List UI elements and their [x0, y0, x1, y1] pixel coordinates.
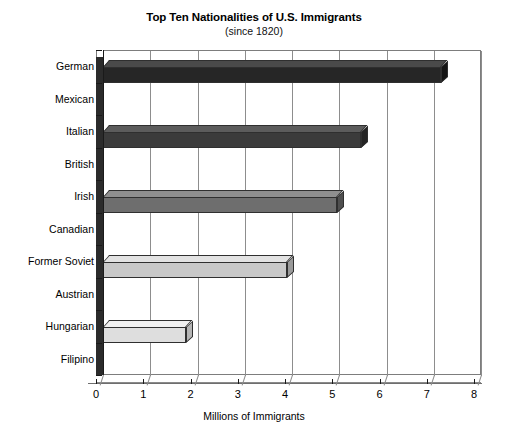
x-axis-tick [285, 379, 286, 384]
x-axis-tick-label: 2 [179, 388, 203, 400]
y-axis-tick [96, 278, 102, 279]
bar-front-face [103, 197, 337, 213]
y-axis-category-label: German [6, 60, 94, 72]
y-axis-category-label: Austrian [6, 288, 94, 300]
x-axis-tick-label: 3 [226, 388, 250, 400]
bar-front-face [103, 262, 287, 278]
x-axis-tick [332, 379, 333, 384]
x-axis-tick-label: 7 [415, 388, 439, 400]
y-axis-category-label: Mexican [6, 93, 94, 105]
y-axis-category-label: Canadian [6, 223, 94, 235]
y-axis-line [103, 50, 104, 375]
bar-top-face [103, 255, 294, 262]
y-axis-category-label: Former Soviet [6, 255, 94, 267]
gridline [198, 51, 199, 376]
y-axis-tick [96, 343, 102, 344]
x-axis-tick-label: 5 [320, 388, 344, 400]
gridline [292, 51, 293, 376]
y-axis-tick [96, 213, 102, 214]
x-axis-tick-label: 0 [84, 388, 108, 400]
x-axis-tick [238, 379, 239, 384]
x-axis-tick [427, 379, 428, 384]
bar [103, 125, 368, 148]
y-axis-tick [96, 180, 102, 181]
y-axis-category-label: Hungarian [6, 320, 94, 332]
gridline [339, 51, 340, 376]
y-axis-category-label: British [6, 158, 94, 170]
y-axis-category-label: Italian [6, 125, 94, 137]
bar-top-face [103, 125, 367, 132]
y-axis-tick [96, 83, 102, 84]
bar [103, 190, 344, 213]
x-axis-tick [380, 379, 381, 384]
y-axis-tick [96, 310, 102, 311]
y-axis-tick [96, 375, 102, 376]
x-axis-tick [96, 379, 97, 384]
x-axis-tick-label: 8 [462, 388, 486, 400]
bar-chart: Top Ten Nationalities of U.S. Immigrants… [0, 0, 508, 442]
gridline [434, 51, 435, 376]
bar-front-face [103, 67, 441, 83]
bar-top-face [103, 60, 447, 67]
x-axis-title: Millions of Immigrants [0, 410, 508, 422]
bar-front-face [103, 327, 186, 343]
gridline [245, 51, 246, 376]
bar [103, 255, 294, 278]
bar [103, 320, 193, 343]
bar-top-face [103, 320, 192, 327]
plot-area [103, 50, 481, 375]
y-axis-tick [96, 115, 102, 116]
x-axis-tick [143, 379, 144, 384]
x-axis-tick-label: 6 [368, 388, 392, 400]
gridline [481, 51, 482, 376]
y-axis-tick [96, 148, 102, 149]
y-axis-category-label: Filipino [6, 353, 94, 365]
y-axis-tick [96, 50, 102, 51]
bar [103, 60, 448, 83]
x-axis-tick [191, 379, 192, 384]
x-axis-tick-label: 1 [131, 388, 155, 400]
bar-top-face [103, 190, 343, 197]
y-axis-labels: GermanMexicanItalianBritishIrishCanadian… [0, 0, 94, 442]
bar-front-face [103, 132, 361, 148]
y-axis-category-label: Irish [6, 190, 94, 202]
y-axis-tick [96, 245, 102, 246]
gridline [387, 51, 388, 376]
x-axis-tick [474, 379, 475, 384]
x-axis-tick-label: 4 [273, 388, 297, 400]
